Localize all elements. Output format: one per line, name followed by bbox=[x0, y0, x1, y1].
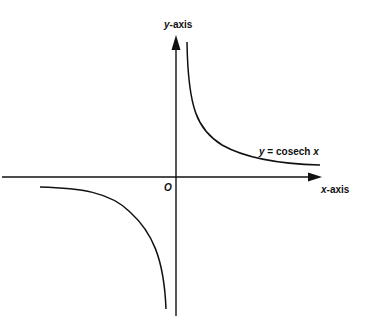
x-axis-arrow-icon bbox=[308, 173, 322, 182]
x-axis-label: x-axis bbox=[320, 184, 350, 195]
origin-label: O bbox=[164, 182, 172, 193]
y-axis-arrow-icon bbox=[172, 35, 181, 50]
y-axis-label: y-axis bbox=[163, 19, 193, 30]
x-axis bbox=[2, 173, 322, 182]
cosech-graph: y-axis x-axis O y = cosech x bbox=[0, 0, 368, 326]
curve-label: y = cosech x bbox=[258, 146, 319, 157]
curve-lower-branch bbox=[40, 187, 166, 309]
y-axis bbox=[172, 35, 181, 316]
